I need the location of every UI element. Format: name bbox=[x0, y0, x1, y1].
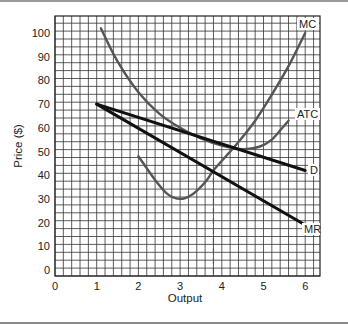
y-tick-label: 50 bbox=[38, 146, 50, 158]
y-tick-label: 0 bbox=[44, 264, 50, 276]
atc-curve bbox=[101, 28, 289, 149]
mr-label: MR bbox=[304, 223, 321, 235]
y-tick-label: 70 bbox=[38, 98, 50, 110]
curves bbox=[97, 28, 306, 225]
y-tick-label: 30 bbox=[38, 193, 50, 205]
x-tick-label: 3 bbox=[177, 280, 183, 292]
y-tick-label: 80 bbox=[38, 74, 50, 86]
y-tick-label: 100 bbox=[32, 27, 50, 39]
plot-grid bbox=[55, 16, 320, 276]
x-tick-label: 6 bbox=[302, 280, 308, 292]
y-tick-label: 20 bbox=[38, 217, 50, 229]
y-tick-label: 40 bbox=[38, 169, 50, 181]
y-axis-title: Price ($) bbox=[12, 124, 24, 168]
bottom-divider bbox=[0, 322, 348, 324]
x-tick-label: 0 bbox=[52, 280, 58, 292]
d-label: D bbox=[310, 164, 318, 176]
y-axis-ticks: 0102030405060708090100 bbox=[32, 27, 50, 276]
y-tick-label: 60 bbox=[38, 122, 50, 134]
mr-curve bbox=[97, 104, 306, 225]
x-tick-label: 2 bbox=[135, 280, 141, 292]
mc-label: MC bbox=[299, 18, 316, 30]
curve-labels: MC ATC D MR bbox=[295, 18, 321, 235]
y-tick-label: 10 bbox=[38, 240, 50, 252]
x-tick-label: 4 bbox=[219, 280, 225, 292]
chart-svg: 0102030405060708090100 0123456 Output Pr… bbox=[0, 0, 348, 325]
x-axis-title: Output bbox=[168, 292, 203, 304]
x-axis-ticks: 0123456 bbox=[52, 280, 308, 292]
y-tick-label: 90 bbox=[38, 51, 50, 63]
atc-label: ATC bbox=[297, 108, 318, 120]
x-tick-label: 1 bbox=[94, 280, 100, 292]
x-tick-label: 5 bbox=[260, 280, 266, 292]
